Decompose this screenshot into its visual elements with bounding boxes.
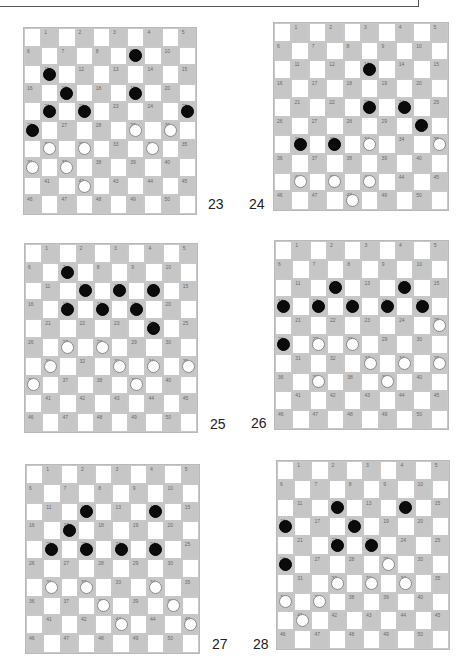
light-square (110, 84, 127, 103)
board-26: 1234567891011121314151617181920212223242… (274, 240, 449, 430)
light-square (344, 98, 361, 117)
light-square (380, 574, 397, 593)
light-square (130, 540, 147, 559)
light-square (397, 593, 414, 612)
white-piece-icon (113, 360, 126, 373)
light-square (397, 517, 414, 536)
square-33: 33 (363, 574, 380, 593)
square-50: 50 (413, 191, 430, 210)
square-29: 29 (127, 121, 144, 140)
square-number: 6 (277, 44, 280, 49)
square-2: 2 (78, 465, 95, 484)
square-number: 42 (330, 393, 336, 398)
white-piece-icon (44, 360, 57, 373)
light-square (292, 373, 309, 392)
light-square (277, 574, 294, 593)
light-square (94, 319, 111, 338)
square-4: 4 (396, 241, 413, 260)
square-number: 45 (434, 393, 440, 398)
light-square (310, 391, 327, 410)
square-31: 31 (43, 578, 60, 597)
square-number: 13 (364, 281, 370, 286)
light-square (291, 42, 308, 61)
square-2: 2 (326, 23, 343, 42)
light-square (93, 177, 110, 196)
square-number: 41 (46, 617, 52, 622)
light-square (24, 177, 41, 196)
light-square (329, 630, 346, 649)
white-piece-icon (27, 378, 40, 391)
square-23: 23 (112, 540, 129, 559)
light-square (274, 60, 291, 79)
square-number: 45 (183, 396, 189, 401)
square-number: 20 (165, 86, 171, 91)
square-8: 8 (94, 263, 111, 282)
square-number: 11 (45, 284, 50, 289)
black-piece-icon (113, 284, 126, 297)
black-piece-icon (149, 543, 162, 556)
square-number: 43 (364, 393, 370, 398)
black-piece-icon (363, 101, 376, 114)
light-square (361, 410, 378, 429)
light-square (180, 338, 197, 357)
black-piece-icon (43, 105, 56, 118)
white-piece-icon (382, 558, 395, 571)
black-piece-icon (60, 87, 73, 100)
square-37: 37 (61, 597, 78, 616)
square-number: 38 (349, 595, 355, 600)
light-square (147, 559, 164, 578)
square-13: 13 (361, 60, 378, 79)
light-square (128, 319, 145, 338)
square-number: 35 (182, 142, 188, 147)
light-square (346, 461, 363, 480)
light-square (415, 611, 432, 630)
square-number: 24 (399, 318, 405, 323)
square-number: 18 (347, 81, 353, 86)
square-number: 6 (280, 482, 283, 487)
square-number: 29 (133, 561, 139, 566)
light-square (344, 135, 361, 154)
light-square (327, 260, 344, 279)
white-piece-icon (149, 581, 162, 594)
square-number: 7 (64, 486, 67, 491)
square-number: 30 (418, 557, 424, 562)
light-square (396, 191, 413, 210)
square-number: 47 (312, 193, 318, 198)
light-square (182, 484, 199, 503)
square-44: 44 (397, 611, 414, 630)
light-square (361, 79, 378, 98)
square-9: 9 (380, 480, 397, 499)
square-14: 14 (396, 279, 413, 298)
square-8: 8 (344, 260, 361, 279)
square-17: 17 (311, 517, 328, 536)
square-23: 23 (361, 316, 378, 335)
square-15: 15 (431, 279, 448, 298)
square-7: 7 (58, 47, 75, 66)
square-2: 2 (327, 241, 344, 260)
light-square (95, 503, 112, 522)
square-40: 40 (413, 154, 430, 173)
square-43: 43 (361, 391, 378, 410)
light-square (144, 84, 161, 103)
light-square (112, 484, 129, 503)
square-number: 8 (347, 44, 350, 49)
square-33: 33 (111, 357, 128, 376)
square-number: 25 (185, 542, 191, 547)
light-square (397, 555, 414, 574)
light-square (163, 319, 180, 338)
square-number: 8 (347, 262, 350, 267)
black-piece-icon (328, 138, 341, 151)
light-square (26, 615, 43, 634)
square-21: 21 (42, 319, 59, 338)
light-square (144, 121, 161, 140)
light-square (182, 559, 199, 578)
light-square (111, 300, 128, 319)
square-number: 20 (418, 519, 424, 524)
white-piece-icon (78, 142, 91, 155)
white-piece-icon (96, 341, 109, 354)
square-number: 5 (435, 463, 438, 468)
square-number: 18 (98, 523, 104, 528)
light-square (396, 154, 413, 173)
square-number: 3 (115, 467, 118, 472)
square-28: 28 (94, 338, 111, 357)
